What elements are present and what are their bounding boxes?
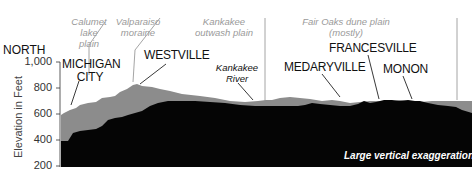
town-michigan-city: MICHIGAN CITY: [62, 58, 118, 84]
region-label-line: outwash plain: [184, 27, 264, 38]
y-axis-label: Elevation in Feet: [12, 76, 24, 158]
region-label-line: Fair Oaks dune plain: [296, 16, 396, 27]
region-kankakee-outwash-plain: Kankakee outwash plain: [184, 16, 264, 38]
region-label-line: lake: [64, 27, 114, 38]
region-label-line: (mostly): [296, 27, 396, 38]
region-valparaiso-moraine: Valparaiso moraine: [108, 16, 168, 38]
region-label-line: Valparaiso: [108, 16, 168, 27]
vertical-exaggeration-note: Large vertical exaggeration: [344, 150, 472, 161]
tick-1000: 1,000: [18, 55, 52, 67]
region-label-line: Kankakee: [184, 16, 264, 27]
river-label-line: Kankakee: [214, 62, 260, 73]
region-fair-oaks-dune-plain: Fair Oaks dune plain (mostly): [296, 16, 396, 38]
region-label-line: moraine: [108, 27, 168, 38]
region-calumet-lake-plain: Calumet lake plain: [64, 16, 114, 49]
tick-200: 200: [18, 159, 52, 171]
region-label-line: Calumet: [64, 16, 114, 27]
river-label-line: River: [214, 73, 260, 84]
town-medaryville: MEDARYVILLE: [284, 61, 366, 74]
town-westville: WESTVILLE: [144, 49, 210, 62]
feature-kankakee-river: Kankakee River: [214, 62, 260, 84]
town-francesville: FRANCESVILLE: [329, 42, 417, 55]
region-label-line: plain: [64, 38, 114, 49]
town-monon: MONON: [383, 63, 428, 76]
town-label-line: CITY: [62, 71, 118, 84]
